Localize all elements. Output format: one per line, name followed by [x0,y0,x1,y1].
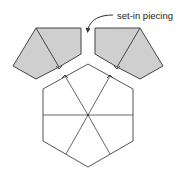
right-shaded-unit [95,28,163,79]
set-in-piecing-label: set-in piecing [117,10,173,21]
center-point [87,114,89,116]
set-in-piecing-diagram: set-in piecing [0,0,192,184]
left-shaded-unit [13,28,81,79]
hexagon-block [43,64,133,167]
